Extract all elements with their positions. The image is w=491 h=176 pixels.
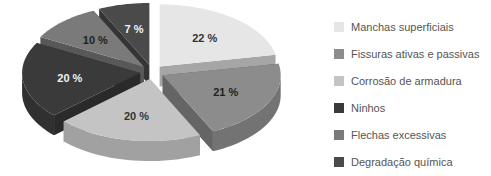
legend-label: Ninhos <box>351 102 385 114</box>
legend-swatch <box>334 157 344 167</box>
legend-swatch <box>334 103 344 113</box>
pie-chart: 22 %21 %20 %20 %10 %7 % <box>0 0 330 176</box>
legend-swatch <box>334 76 344 86</box>
legend-item-manchas: Manchas superficiais <box>334 13 479 40</box>
legend-label: Corrosão de armadura <box>351 75 462 87</box>
legend-item-fissuras: Fissuras ativas e passivas <box>334 40 479 67</box>
legend-label: Flechas excessivas <box>351 129 446 141</box>
legend-item-corrosao: Corrosão de armadura <box>334 67 479 94</box>
legend-swatch <box>334 49 344 59</box>
legend-label: Fissuras ativas e passivas <box>351 48 479 60</box>
slice-value-label: 20 % <box>124 110 149 122</box>
legend-item-flechas: Flechas excessivas <box>334 121 479 148</box>
slice-value-label: 20 % <box>57 72 82 84</box>
slice-value-label: 10 % <box>83 34 108 46</box>
slice-value-label: 22 % <box>192 32 217 44</box>
slice-value-label: 21 % <box>213 86 238 98</box>
chart-legend: Manchas superficiais Fissuras ativas e p… <box>334 13 479 175</box>
legend-label: Manchas superficiais <box>351 21 454 33</box>
legend-label: Degradação química <box>351 156 453 168</box>
legend-swatch <box>334 22 344 32</box>
legend-item-degradacao: Degradação química <box>334 148 479 175</box>
legend-swatch <box>334 130 344 140</box>
slice-value-label: 7 % <box>124 23 143 35</box>
legend-item-ninhos: Ninhos <box>334 94 479 121</box>
